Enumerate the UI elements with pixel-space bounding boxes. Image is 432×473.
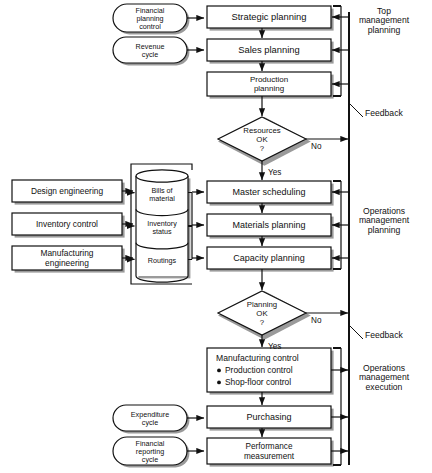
bills-of-material-label: Bills ofmaterial (149, 186, 175, 203)
planning-ok-label-line-0: Planning (247, 300, 277, 309)
manufacturing-control-bullet-0-icon (217, 369, 221, 373)
planning-ok-yes-label: Yes (268, 342, 281, 351)
performance-measurement-label-line-0: Performance (246, 442, 293, 451)
mrp-database-top (136, 170, 188, 182)
purchasing-label-line-0: Purchasing (246, 412, 291, 422)
manufacturing-control-bullet-0: Production control (225, 365, 293, 375)
expenditure-cycle-label-line-1: cycle (142, 418, 158, 427)
purchasing-label: Purchasing (246, 412, 291, 422)
operations-management-execution-line-2: execution (366, 382, 403, 392)
capacity-planning-label: Capacity planning (233, 253, 305, 263)
manufacturing-control-bullet-1-icon (217, 381, 221, 385)
operations-management-planning-line-2: planning (368, 225, 401, 235)
flowchart-canvas: FinancialplanningcontrolRevenuecycleExpe… (0, 0, 432, 473)
production-planning-label-line-1: planning (254, 84, 284, 93)
performance-measurement-label-line-1: measurement (244, 452, 295, 461)
feedback-upper-line-0: Feedback (365, 108, 403, 118)
bills-of-material-label-line-1: material (149, 194, 175, 203)
routings-label-line-0: Routings (148, 256, 177, 265)
revenue-cycle-label-line-1: cycle (142, 50, 158, 59)
inventory-control-label-line-0: Inventory control (36, 219, 98, 229)
resources-ok-label-line-2: ? (260, 144, 265, 153)
performance-measurement-label: Performancemeasurement (244, 442, 295, 460)
resources-ok-label-line-0: Resources (243, 126, 280, 135)
production-planning-label: Productionplanning (250, 75, 288, 93)
resources-ok-yes-label: Yes (268, 168, 281, 177)
feedback-lower-line-0: Feedback (365, 330, 403, 340)
manufacturing-control-bullet-1: Shop-floor control (225, 377, 291, 387)
materials-planning-label-line-0: Materials planning (232, 220, 305, 230)
capacity-planning-label-line-0: Capacity planning (233, 253, 305, 263)
manufacturing-engineering-label: Manufacturingengineering (40, 248, 93, 267)
routings-label: Routings (148, 256, 177, 265)
financial-planning-control-label: Financialplanningcontrol (136, 6, 165, 31)
flowchart-svg: FinancialplanningcontrolRevenuecycleExpe… (0, 0, 432, 473)
design-engineering-label-line-0: Design engineering (31, 186, 104, 196)
master-scheduling-label: Master scheduling (232, 187, 305, 197)
inventory-control-label: Inventory control (36, 219, 98, 229)
planning-ok-no-label: No (311, 316, 322, 325)
resources-ok-no-label: No (311, 142, 322, 151)
planning-ok-label-line-1: OK (256, 309, 268, 318)
inventory-status-label-line-1: status (152, 227, 172, 236)
financial-planning-control-label-line-2: control (139, 22, 161, 31)
manufacturing-control-title: Manufacturing control (216, 353, 299, 363)
master-scheduling-label-line-0: Master scheduling (232, 187, 305, 197)
strategic-planning-label: Strategic planning (231, 11, 306, 22)
resources-ok-label-line-1: OK (256, 135, 268, 144)
manufacturing-engineering-label-line-1: engineering (45, 258, 89, 268)
design-engineering-label: Design engineering (31, 186, 104, 196)
production-planning-label-line-0: Production (250, 75, 288, 84)
financial-reporting-cycle-label-line-2: cycle (142, 455, 158, 464)
sales-planning-label-line-0: Sales planning (238, 44, 300, 55)
top-management-planning-line-2: planning (368, 25, 401, 35)
strategic-planning-label-line-0: Strategic planning (231, 11, 306, 22)
planning-ok-label-line-2: ? (260, 318, 265, 327)
sales-planning-label: Sales planning (238, 44, 300, 55)
materials-planning-label: Materials planning (232, 220, 305, 230)
